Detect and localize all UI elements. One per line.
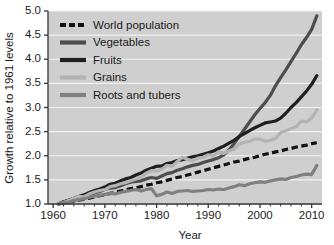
y-axis-title: Growth relative to 1961 levels [3,32,15,184]
legend-label-roots-and-tubers: Roots and tubers [93,89,181,101]
legend-label-vegetables: Vegetables [93,36,150,48]
y-tick-label: 1.0 [25,197,41,209]
y-tick-label: 2.0 [25,149,41,161]
y-tick-label: 3.0 [25,101,41,113]
x-tick-label: 1960 [40,209,66,221]
x-axis-title: Year [178,229,201,241]
growth-relative-to-1961-line-chart: 1.01.52.02.53.03.54.04.55.0 196019701980… [0,0,334,245]
x-tick-label: 1970 [92,209,118,221]
x-tick-label: 2000 [247,209,273,221]
legend-label-world-population: World population [93,19,179,31]
legend-label-fruits: Fruits [93,54,122,66]
chart-figure: 1.01.52.02.53.03.54.04.55.0 196019701980… [0,0,334,245]
y-tick-label: 4.5 [25,28,41,40]
y-tick-label: 5.0 [25,4,41,16]
legend-label-grains: Grains [93,71,127,83]
y-tick-label: 4.0 [25,52,41,64]
y-tick-label: 3.5 [25,76,41,88]
y-tick-label: 1.5 [25,173,41,185]
x-tick-label: 1990 [195,209,221,221]
x-tick-label: 1980 [144,209,170,221]
x-tick-label: 2010 [299,209,325,221]
y-tick-label: 2.5 [25,125,41,137]
